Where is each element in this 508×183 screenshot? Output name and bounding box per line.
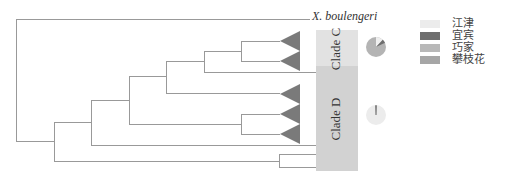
pie-chart-clade-c — [366, 37, 386, 57]
legend-item: 攀枝花 — [420, 54, 485, 66]
clade-c-label: Clade C — [328, 19, 344, 79]
collapsed-clade-triangle — [280, 84, 300, 104]
legend-swatch — [420, 20, 440, 28]
pie-chart-clade-d — [366, 105, 386, 125]
outgroup-label: X. boulengeri — [312, 9, 377, 24]
collapsed-clade-triangle — [280, 51, 300, 71]
clade-d-label: Clade D — [328, 89, 344, 149]
legend-swatch — [420, 32, 440, 40]
legend-swatch — [420, 44, 440, 52]
collapsed-clades — [280, 31, 300, 144]
legend-label: 攀枝花 — [452, 54, 485, 66]
legend-swatch — [420, 56, 440, 64]
collapsed-clade-triangle — [280, 31, 300, 51]
collapsed-clade-triangle — [280, 124, 300, 144]
collapsed-clade-triangle — [280, 104, 300, 124]
tree-branches — [16, 19, 318, 168]
legend: 江津 宜宾 巧家 攀枝花 — [420, 18, 485, 66]
